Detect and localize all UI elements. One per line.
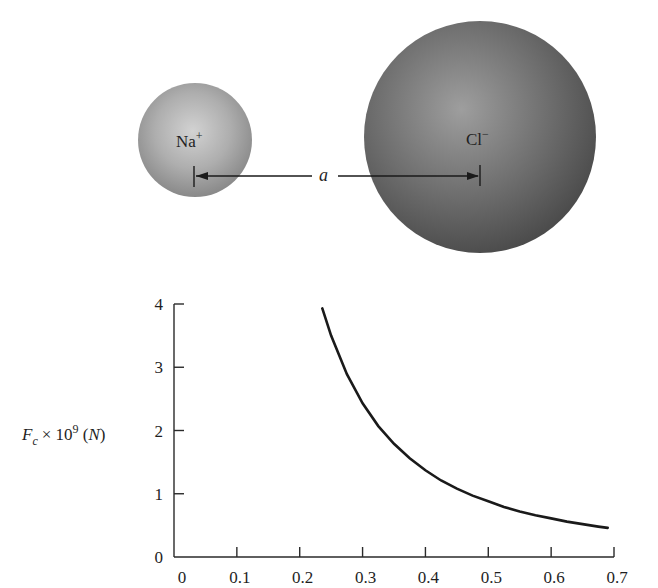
x-tick-label: 0.6 — [544, 568, 565, 587]
x-tick-label: 0.5 — [481, 568, 502, 587]
force-curve — [322, 308, 607, 528]
separation-label: a — [319, 165, 328, 185]
y-axis-label: Fc× 109 (N) — [21, 422, 106, 448]
ion-diagram: Na+ Cl− a — [138, 21, 596, 253]
x-tick-label: 0.4 — [418, 568, 440, 587]
figure: Na+ Cl− a 01234 00.10.20.30.40.50.60.7 F… — [0, 0, 658, 588]
y-tick-label: 3 — [155, 358, 164, 377]
y-tick-label: 4 — [155, 295, 164, 314]
x-tick-label: 0 — [178, 568, 187, 587]
x-ticks: 00.10.20.30.40.50.60.7 — [178, 547, 628, 587]
y-ticks: 01234 — [155, 295, 185, 567]
figure-svg: Na+ Cl− a 01234 00.10.20.30.40.50.60.7 F… — [0, 0, 658, 588]
y-tick-label: 0 — [155, 548, 164, 567]
x-tick-label: 0.1 — [229, 568, 250, 587]
y-tick-label: 2 — [155, 422, 164, 441]
x-tick-label: 0.7 — [606, 568, 628, 587]
x-tick-label: 0.2 — [292, 568, 313, 587]
x-tick-label: 0.3 — [355, 568, 376, 587]
force-chart: 01234 00.10.20.30.40.50.60.7 Fc× 109 (N) — [21, 295, 628, 587]
y-tick-label: 1 — [155, 485, 164, 504]
